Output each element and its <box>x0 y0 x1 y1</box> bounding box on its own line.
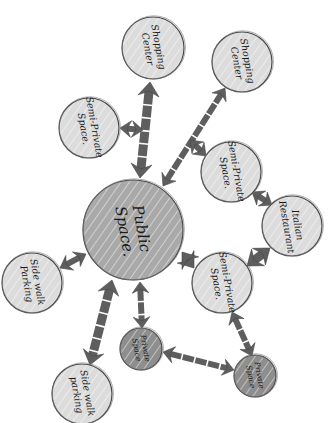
connection-public-semi3 <box>177 251 199 270</box>
connection-italian-semi3 <box>247 248 270 266</box>
node-italian: ItalianRestaurant <box>262 195 323 256</box>
connection-public-park1 <box>60 252 86 270</box>
connection-public-priv1 <box>132 282 150 328</box>
connection-shop1-link-semi1 <box>120 121 143 138</box>
node-priv2: PrivateSpace <box>234 354 277 397</box>
nodes: PublicSpace.ShoppingCenterShoppingCenter… <box>2 16 323 423</box>
node-public: PublicSpace. <box>83 179 184 280</box>
connection-priv1-priv2 <box>163 347 234 376</box>
connection-shop2-link-semi2 <box>190 140 206 156</box>
bubble-diagram: PublicSpace.ShoppingCenterShoppingCenter… <box>0 0 329 423</box>
connection-public-park2 <box>83 280 118 365</box>
node-park2: Side walkparking <box>52 363 113 423</box>
connection-semi3-priv2 <box>229 312 255 356</box>
connection-semi2-italian <box>252 191 272 206</box>
node-priv1: PrivateSpace <box>120 327 163 370</box>
node-semi3: Semi-PrivateSpace. <box>192 251 253 316</box>
node-semi1: Semi-PrivateSpace. <box>59 96 120 161</box>
node-shop2: ShoppingCenter <box>212 31 273 92</box>
node-park1: Side walkParking <box>2 252 63 313</box>
node-shop1: ShoppingCenter <box>122 16 185 79</box>
